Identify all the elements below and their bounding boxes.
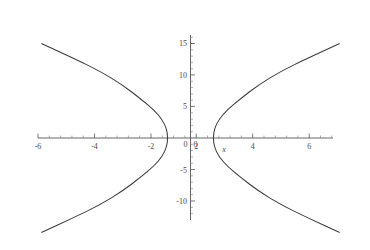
y-tick-label--10: -10 [176, 197, 187, 206]
y-axis-group: 15 10 5 -5 -10 0 0 [176, 35, 197, 220]
x-tick-label--4: -4 [91, 142, 98, 151]
y-tick-label-5: 5 [183, 102, 187, 111]
x-tick-label-4: 4 [251, 142, 255, 151]
x-tick-label-6: 6 [307, 142, 311, 151]
x-axis-label: x [221, 145, 226, 154]
mask-top [0, 0, 370, 14]
mask-right [351, 0, 370, 250]
y-tick-label-10: 10 [179, 71, 187, 80]
y-tick-label-15: 15 [179, 39, 187, 48]
x-tick-label--6: -6 [35, 142, 42, 151]
plot-canvas: -6 -4 -2 2 4 6 x [0, 0, 370, 250]
plot-screenshot: -6 -4 -2 2 4 6 x [0, 0, 370, 250]
y-tick-label--5: -5 [180, 166, 187, 175]
x-tick-label--2: -2 [148, 142, 155, 151]
mask-bottom [0, 234, 370, 250]
x-tick-label-0: 0 [194, 140, 198, 149]
y-axis-major-ticks [191, 44, 196, 202]
mask-left [0, 0, 20, 250]
origin-label: 0 [184, 140, 188, 149]
